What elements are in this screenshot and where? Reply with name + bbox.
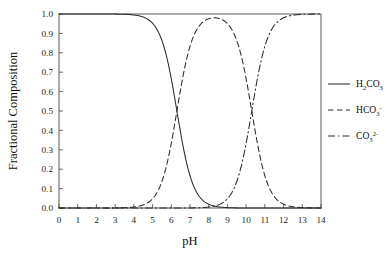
- y-tick-label: 0.4: [42, 126, 54, 136]
- legend-item-h2co3[interactable]: H2CO3: [328, 78, 384, 91]
- y-tick-label: 0.1: [42, 184, 54, 194]
- x-tick-label: 7: [188, 215, 193, 225]
- plot-frame: [59, 14, 321, 208]
- y-tick-label: 1.0: [42, 9, 54, 19]
- x-tick-label: 14: [316, 215, 326, 225]
- y-tick-label: 0.8: [42, 48, 54, 58]
- x-tick-label: 0: [57, 215, 62, 225]
- legend: H2CO3 HCO3- CO32-: [328, 78, 384, 143]
- x-tick-label: 2: [94, 215, 99, 225]
- legend-label-hco3: HCO3-: [356, 104, 382, 117]
- y-tick-label: 0.9: [42, 29, 54, 39]
- y-tick-label: 0.3: [42, 145, 54, 155]
- x-tick-label: 8: [206, 215, 211, 225]
- y-tick-label: 0.0: [42, 203, 54, 213]
- chart-canvas: 0.00.10.20.30.40.50.60.70.80.91.0 012345…: [0, 0, 387, 256]
- x-tick-label: 5: [150, 215, 155, 225]
- x-tick-label: 11: [260, 215, 269, 225]
- legend-item-co3[interactable]: CO32-: [328, 130, 378, 143]
- x-tick-label: 10: [242, 215, 252, 225]
- y-axis-title: Fractional Composition: [6, 51, 20, 170]
- data-curves: [59, 14, 321, 208]
- curve-co3: [59, 14, 321, 208]
- x-tick-label: 6: [169, 215, 174, 225]
- y-tick-label: 0.6: [42, 87, 54, 97]
- x-tick-label: 12: [279, 215, 289, 225]
- x-tick-label: 9: [225, 215, 230, 225]
- curve-h2co3: [59, 14, 321, 208]
- y-axis-tick-labels: 0.00.10.20.30.40.50.60.70.80.91.0: [42, 9, 54, 213]
- x-axis-title: pH: [182, 234, 197, 248]
- x-axis-tick-labels: 01234567891011121314: [57, 215, 326, 225]
- x-tick-label: 13: [298, 215, 308, 225]
- y-tick-label: 0.2: [42, 164, 54, 174]
- carbonate-speciation-figure: 0.00.10.20.30.40.50.60.70.80.91.0 012345…: [0, 0, 387, 256]
- legend-label-co3: CO32-: [356, 130, 378, 143]
- y-axis-ticks: [59, 14, 63, 208]
- y-tick-label: 0.7: [42, 67, 54, 77]
- y-tick-label: 0.5: [42, 106, 54, 116]
- x-tick-label: 3: [113, 215, 118, 225]
- x-tick-label: 4: [132, 215, 137, 225]
- x-tick-label: 1: [75, 215, 80, 225]
- legend-item-hco3[interactable]: HCO3-: [328, 104, 382, 117]
- curve-hco3: [59, 18, 321, 208]
- legend-label-h2co3: H2CO3: [356, 78, 384, 91]
